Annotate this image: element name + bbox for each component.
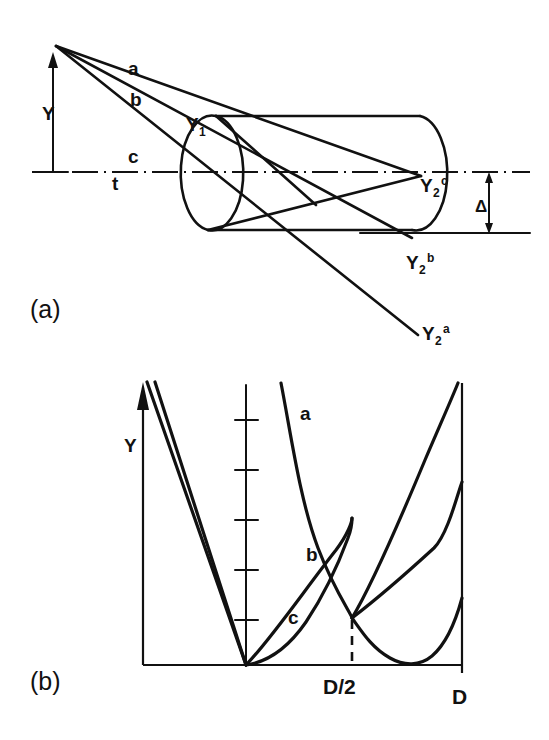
panel-b-curve-c xyxy=(155,382,246,665)
panel-b-y-axis xyxy=(137,382,149,665)
svg-text:1: 1 xyxy=(199,125,206,139)
panel-b-label-D: D xyxy=(452,685,467,708)
svg-text:2: 2 xyxy=(435,334,442,348)
svg-text:b: b xyxy=(427,251,434,265)
panel-a-label-t: t xyxy=(112,173,119,194)
svg-text:2: 2 xyxy=(419,263,426,277)
panel-b-curve-c-tail xyxy=(352,598,462,664)
figure-container: Y a b c t Y 1 Y 2 c Y 2 b Y 2 a Δ (a) xyxy=(0,0,549,740)
panel-b-label-Y: Y xyxy=(124,435,137,456)
panel-b-label-curve-b: b xyxy=(306,544,318,565)
svg-text:Y: Y xyxy=(406,252,419,273)
panel-a-diagram: Y a b c t Y 1 Y 2 c Y 2 b Y 2 a Δ (a) xyxy=(0,0,549,370)
panel-a-ray-b xyxy=(56,46,412,238)
panel-b-label-curve-a: a xyxy=(300,403,311,424)
panel-b-inner-axis xyxy=(235,385,258,665)
panel-a-label-a: a xyxy=(128,58,139,79)
panel-a-label-delta: Δ xyxy=(475,197,487,216)
panel-a-label-Y2b: Y 2 b xyxy=(406,251,434,277)
svg-text:c: c xyxy=(441,174,448,188)
panel-a-label-b: b xyxy=(130,89,142,110)
panel-b-label-D-half: D/2 xyxy=(323,675,356,698)
panel-a-label-c: c xyxy=(128,146,139,167)
panel-a-ray-c xyxy=(56,46,421,176)
panel-a-chord-y1 xyxy=(216,116,316,205)
svg-text:2: 2 xyxy=(433,186,440,200)
svg-text:Y: Y xyxy=(422,323,435,344)
panel-a-label-Y2a: Y 2 a xyxy=(422,322,450,348)
panel-b-label-curve-c: c xyxy=(288,607,299,628)
svg-text:Y: Y xyxy=(420,175,433,196)
panel-b-chart: Y a b c D/2 D (b) xyxy=(0,370,549,740)
panel-a-label-Y: Y xyxy=(42,103,55,124)
svg-text:a: a xyxy=(443,322,450,336)
panel-a-key: (a) xyxy=(30,295,61,323)
svg-text:Y: Y xyxy=(186,114,199,135)
panel-b-key: (b) xyxy=(30,667,61,695)
